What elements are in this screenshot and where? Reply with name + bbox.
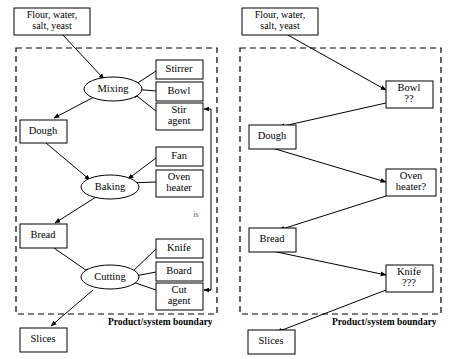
diagram-canvas: Product/system boundary is	[0, 0, 449, 359]
node-bread-left: Bread	[20, 224, 67, 248]
node-label-line2: heater	[166, 182, 192, 193]
node-label-line2: agent	[168, 295, 191, 306]
node-oven-heater-left: Oven heater	[156, 170, 203, 197]
link-feedback-to-stiragent	[204, 109, 211, 290]
node-cut-agent: Cut agent	[156, 283, 203, 310]
link-dough-to-baking-left	[46, 143, 90, 180]
node-flour-water-salt-yeast-left: Flour, water, salt, yeast	[14, 8, 90, 35]
node-label-line1: Knife	[397, 266, 421, 277]
node-oven-heater-right: Oven heater?	[386, 169, 436, 196]
node-fan: Fan	[156, 147, 203, 166]
link-bowl-to-dough-right	[279, 103, 386, 127]
node-label-line2: salt, yeast	[260, 20, 300, 31]
node-slices-right: Slices	[248, 330, 295, 354]
node-label-line1: Oven	[400, 170, 423, 181]
node-label-line1: Mixing	[98, 83, 130, 94]
node-label-line1: Cut	[171, 284, 186, 295]
node-label-line1: Bread	[259, 233, 285, 244]
link-dough-to-ovenheater-right	[272, 148, 386, 182]
node-label-line2: ???	[402, 277, 416, 288]
boundary-label-right: Product/system boundary	[332, 317, 437, 327]
link-bread-to-cutting-left	[54, 248, 90, 273]
node-label-line1: Board	[166, 265, 192, 276]
panel-right: Product/system boundary Flour, water, sa…	[240, 8, 441, 354]
node-label-line1: Dough	[29, 125, 58, 136]
node-bread-right: Bread	[249, 228, 296, 252]
node-board: Board	[156, 262, 203, 281]
node-mixing: Mixing	[84, 77, 142, 101]
node-label-line1: Baking	[95, 181, 126, 192]
node-label-line1: Bowl	[398, 82, 421, 93]
node-label-line1: Flour, water,	[255, 9, 306, 20]
link-input-to-bowl-right	[286, 34, 386, 90]
node-knife-left: Knife	[156, 239, 203, 258]
node-label-line1: Cutting	[94, 271, 126, 282]
link-ovenheater-to-bread-right	[279, 196, 386, 230]
node-label-line1: Fan	[171, 150, 188, 161]
node-label-line1: Slices	[30, 333, 55, 344]
link-bread-to-knife-right	[272, 251, 386, 275]
node-label-line1: Knife	[167, 242, 191, 253]
node-label-line1: Flour, water,	[27, 9, 78, 20]
node-label-line2: salt, yeast	[32, 20, 72, 31]
node-stir-agent: Stir agent	[156, 103, 203, 130]
link-mixing-to-dough-left	[54, 97, 94, 118]
boundary-label-left: Product/system boundary	[108, 317, 213, 327]
link-fan-to-baking	[128, 158, 156, 179]
node-bowl-left: Bowl	[156, 82, 203, 101]
node-label-line2: agent	[168, 115, 191, 126]
node-knife-right: Knife ???	[386, 265, 433, 292]
node-dough-right: Dough	[249, 125, 296, 149]
node-label-line1: Stirrer	[166, 63, 193, 74]
node-label-line1: Bread	[30, 229, 56, 240]
node-label-line1: Stir	[171, 104, 187, 115]
node-baking: Baking	[81, 175, 139, 199]
node-slices-left: Slices	[20, 328, 67, 352]
panel-left: Product/system boundary is	[14, 8, 217, 352]
note-label-left: is	[193, 210, 198, 219]
link-baking-to-bread-left	[55, 197, 96, 223]
node-cutting: Cutting	[81, 265, 139, 289]
node-label-line1: Bowl	[168, 85, 191, 96]
node-flour-water-salt-yeast-right: Flour, water, salt, yeast	[242, 8, 318, 35]
node-label-line2: heater?	[396, 181, 427, 192]
node-label-line2: ??	[404, 93, 414, 104]
link-cutting-to-slices-left	[51, 290, 93, 326]
node-label-line1: Oven	[168, 171, 191, 182]
node-stirrer: Stirrer	[156, 60, 203, 79]
node-dough-left: Dough	[20, 120, 67, 143]
link-input-to-mixing-left	[62, 34, 104, 79]
node-bowl-right: Bowl ??	[386, 81, 433, 108]
node-label-line1: Slices	[258, 335, 283, 346]
node-label-line1: Dough	[258, 130, 287, 141]
diagram-svg: Product/system boundary is	[0, 0, 449, 359]
